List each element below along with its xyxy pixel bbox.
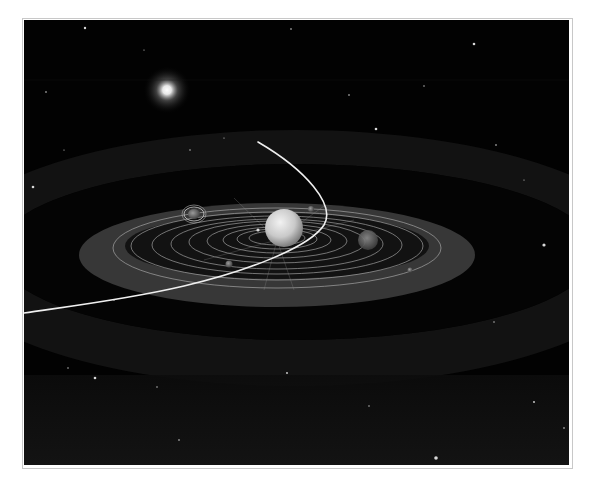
small-planet xyxy=(226,261,233,268)
small-planet xyxy=(408,268,413,273)
bright-star xyxy=(143,66,191,114)
small-planet xyxy=(256,228,259,231)
scene-graphic xyxy=(24,20,569,465)
side-planet xyxy=(358,230,378,250)
central-planet xyxy=(265,209,303,247)
small-planet xyxy=(308,206,314,212)
solar-system-scene xyxy=(24,20,569,465)
